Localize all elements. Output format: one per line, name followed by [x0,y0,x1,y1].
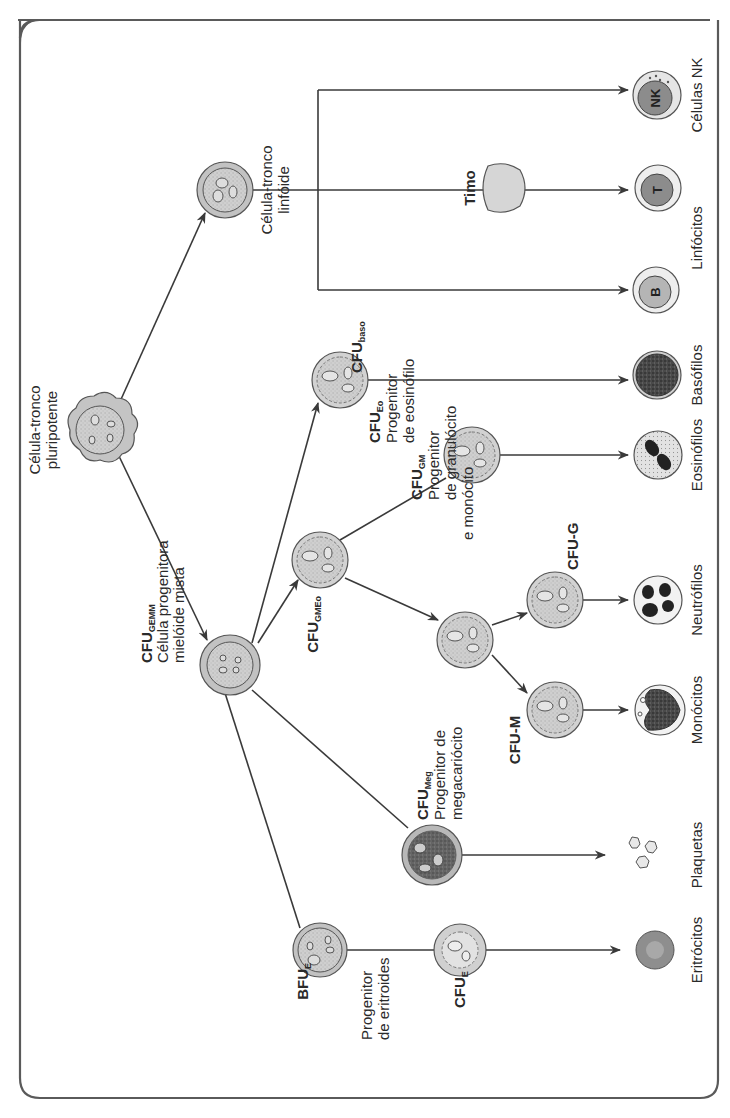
eo-label-1: Progenitor [383,374,400,443]
connector-lines [118,90,628,950]
lymphoid-label-1: Célula-tronco [258,145,275,234]
bfu-e-name: BFUE [294,963,313,1000]
erythrocytes-label: Eritrócitos [688,917,705,984]
cell-bfu-e [293,923,347,977]
thymus-icon [483,164,525,213]
cell-cfu-gm [437,612,493,668]
cfu-g-name: CFU-G [564,523,581,571]
hematopoiesis-diagram: NK T B [0,0,730,1118]
cfu-e-name: CFUE [451,971,470,1008]
baso-name: CFUbaso [348,321,367,373]
mature-monocyte [635,685,685,735]
b-letter: B [648,287,663,296]
basophils-label: Basófilos [688,345,705,406]
mature-b-cell: B [633,267,679,313]
meg-label-2: megacariócito [448,727,465,820]
mature-platelets [629,837,657,868]
lymphoid-label-2: linfóide [275,166,292,214]
thymus-label: Timo [461,170,478,206]
cell-pluripotent [68,392,138,462]
erythroid-progenitor-label-1: Progenitor [358,971,375,1040]
monocytes-label: Monócitos [688,676,705,744]
gm-label-1: Progenitor [425,431,442,500]
eo-label-2: de eosinófilo [400,359,417,443]
cell-cfu-g [527,572,583,628]
gm-label-3: e monócito [459,467,476,540]
mature-neutrophil [634,576,682,624]
mature-t-cell: T [635,165,681,211]
cfu-m-name: CFU-M [506,716,523,764]
gm-label-2: de granulócito [442,406,459,500]
eosinophils-label: Eosinófilos [688,419,705,492]
gemm-label-1: Célula progenitora [154,540,171,663]
cell-cfu-m [527,682,583,738]
pluripotent-label-1: Célula-tronco [26,385,43,474]
mature-nk-cell: NK [633,71,681,119]
mature-eosinophil [634,431,682,479]
erythroid-progenitor-label-2: de eritroides [375,957,392,1040]
neutrophils-label: Neutrófilos [688,564,705,636]
nk-cells-label: Células NK [688,57,705,132]
cell-cfu-e [434,924,486,976]
rotated-figure: NK T B [18,20,718,1098]
cell-cfu-gmeo [292,532,348,588]
meg-label-1: Progenitor de [431,730,448,820]
frame-border [18,20,718,1098]
labels: Célula-tronco pluripotente Célula-tronco… [26,57,705,1040]
lymphocytes-label: Linfócitos [688,206,705,269]
nk-letter: NK [648,88,663,107]
cell-cfu-meg [402,825,462,885]
cell-lymphoid-stem [197,162,253,218]
gmeo-name: CFUGMEo [304,595,323,652]
mature-erythrocyte [636,931,674,969]
diagram-canvas: NK T B [0,0,730,1118]
t-letter: T [650,186,665,194]
mature-basophil [633,351,681,399]
cell-cfu-gemm [200,635,260,695]
platelets-label: Plaquetas [688,822,705,889]
gemm-label-2: mielóide mista [170,566,187,663]
pluripotent-label-2: pluripotente [43,391,60,469]
